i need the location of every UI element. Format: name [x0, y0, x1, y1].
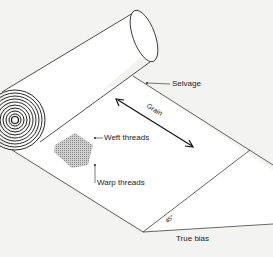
fabric-roll-illustration: [0, 0, 273, 257]
true-bias-label: True bias: [176, 234, 209, 243]
warp-threads-label: Warp threads: [97, 178, 145, 187]
selvage-label: Selvage: [172, 79, 201, 88]
fabric-diagram: Selvage Grain Weft threads Warp threads …: [0, 0, 273, 257]
weft-threads-label: Weft threads: [104, 133, 149, 142]
